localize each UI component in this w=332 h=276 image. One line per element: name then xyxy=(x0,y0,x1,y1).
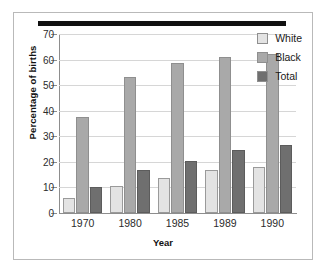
bar-total-1980 xyxy=(137,170,150,213)
legend-label: Total xyxy=(275,70,297,82)
y-axis-tick-label: 50 xyxy=(43,80,54,91)
y-axis-tick-label: 70 xyxy=(43,29,54,40)
y-axis-tick-label: 30 xyxy=(43,131,54,142)
bar-white-1990 xyxy=(253,167,266,213)
bar-black-1980 xyxy=(124,77,137,213)
bar-white-1970 xyxy=(63,198,76,213)
bar-white-1980 xyxy=(110,186,123,213)
x-axis-tick-label: 1985 xyxy=(166,217,189,229)
chart-legend: WhiteBlackTotal xyxy=(257,32,302,89)
x-axis-tick-label: 1989 xyxy=(213,217,236,229)
legend-swatch-icon xyxy=(257,52,268,63)
legend-label: White xyxy=(275,32,302,44)
bar-group xyxy=(154,34,201,213)
y-axis-tick-label: 40 xyxy=(43,105,54,116)
y-axis-tick-label: 60 xyxy=(43,54,54,65)
y-axis-tick-label: 20 xyxy=(43,156,54,167)
legend-swatch-icon xyxy=(257,71,268,82)
x-axis-tick-label: 1980 xyxy=(118,217,141,229)
y-axis-tick-label: 0 xyxy=(48,208,54,219)
legend-item-total: Total xyxy=(257,70,302,82)
chart-figure: Percentage of births 010203040506070 Yea… xyxy=(13,12,313,260)
bar-group xyxy=(201,34,248,213)
bar-total-1990 xyxy=(280,145,293,213)
bar-black-1985 xyxy=(171,63,184,213)
bar-white-1985 xyxy=(158,178,171,213)
x-axis-tick-label: 1970 xyxy=(71,217,94,229)
header-rule xyxy=(38,21,286,26)
bar-total-1989 xyxy=(232,150,245,213)
legend-item-black: Black xyxy=(257,51,302,63)
bar-black-1970 xyxy=(76,117,89,213)
legend-label: Black xyxy=(275,51,301,63)
y-axis-title: Percentage of births xyxy=(27,23,38,163)
bar-black-1989 xyxy=(219,57,232,213)
bar-total-1970 xyxy=(90,187,103,213)
x-axis-line xyxy=(59,213,297,214)
y-axis-tick-label: 10 xyxy=(43,182,54,193)
bar-total-1985 xyxy=(185,161,198,213)
x-axis-tick-label: 1990 xyxy=(261,217,284,229)
bar-group xyxy=(106,34,153,213)
bar-white-1989 xyxy=(205,170,218,213)
bar-group xyxy=(59,34,106,213)
legend-item-white: White xyxy=(257,32,302,44)
legend-swatch-icon xyxy=(257,33,268,44)
x-axis-title: Year xyxy=(14,237,312,248)
